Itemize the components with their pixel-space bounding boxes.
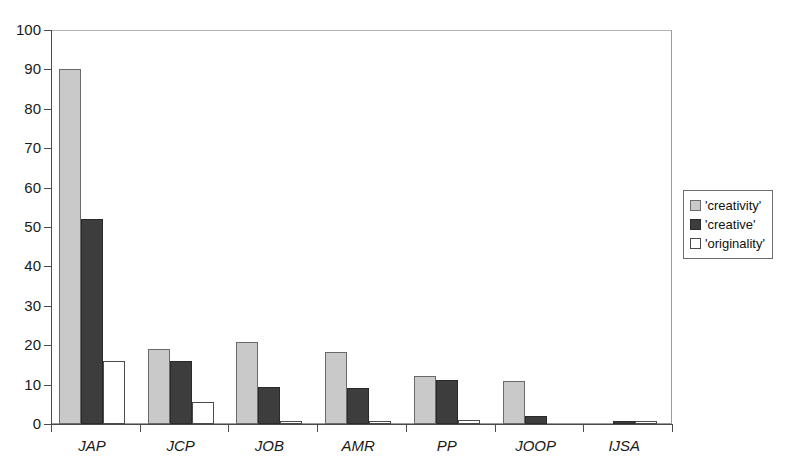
y-axis-tick (44, 345, 51, 346)
y-axis-label: 70 (0, 140, 41, 155)
legend-swatch-icon (690, 238, 701, 249)
x-axis-line (51, 424, 673, 425)
bar-group (503, 30, 569, 424)
x-axis-tick (583, 425, 584, 432)
y-axis-tick (44, 385, 51, 386)
bar (236, 342, 258, 424)
legend-label: 'creative' (705, 218, 755, 231)
bar-group (591, 30, 657, 424)
legend-swatch-icon (690, 200, 701, 211)
bar (325, 352, 347, 424)
y-axis-tick (44, 148, 51, 149)
y-axis-tick (44, 30, 51, 31)
y-axis-tick (44, 424, 51, 425)
bar (458, 420, 480, 424)
y-axis-tick (44, 69, 51, 70)
x-axis-tick (140, 425, 141, 432)
x-axis-tick (317, 425, 318, 432)
bar (170, 361, 192, 424)
y-axis-tick (44, 266, 51, 267)
x-axis-tick (51, 425, 52, 432)
y-axis-tick (44, 306, 51, 307)
bar (192, 402, 214, 424)
legend-item[interactable]: 'creative' (690, 215, 765, 234)
x-axis-tick (228, 425, 229, 432)
bar-group (59, 30, 125, 424)
bar (503, 381, 525, 424)
x-axis-tick (672, 425, 673, 432)
x-axis-tick (495, 425, 496, 432)
bar-group (236, 30, 302, 424)
y-axis-label: 30 (0, 298, 41, 313)
y-axis-label: 10 (0, 377, 41, 392)
y-axis-tick (44, 109, 51, 110)
bar (635, 421, 657, 424)
y-axis-tick (44, 227, 51, 228)
bar (525, 416, 547, 424)
y-axis-label: 60 (0, 180, 41, 195)
y-axis-label: 100 (0, 22, 41, 37)
y-axis-label: 90 (0, 61, 41, 76)
bar (369, 421, 391, 424)
y-axis-label: 0 (0, 416, 41, 431)
y-axis-tick (44, 188, 51, 189)
y-axis-line (51, 30, 52, 425)
chart-legend: 'creativity''creative''originality' (683, 190, 773, 259)
bar (148, 349, 170, 424)
legend-item[interactable]: 'creativity' (690, 196, 765, 215)
bar-group (148, 30, 214, 424)
legend-label: 'creativity' (705, 199, 761, 212)
bar-chart-figure: 0102030405060708090100 JAPJCPJOBAMRPPJOO… (0, 0, 802, 474)
legend-item[interactable]: 'originality' (690, 234, 765, 253)
x-axis-label: IJSA (571, 437, 677, 454)
bar-group (325, 30, 391, 424)
bar (59, 69, 81, 424)
y-axis-label: 40 (0, 258, 41, 273)
legend-label: 'originality' (705, 237, 765, 250)
x-axis-tick (406, 425, 407, 432)
bar (436, 380, 458, 424)
bar (258, 387, 280, 424)
bar-group (414, 30, 480, 424)
bar (613, 421, 635, 424)
bar (280, 421, 302, 424)
bar (81, 219, 103, 424)
bar (347, 388, 369, 424)
bar (414, 376, 436, 424)
legend-swatch-icon (690, 219, 701, 230)
y-axis-label: 50 (0, 219, 41, 234)
y-axis-label: 20 (0, 337, 41, 352)
y-axis-label: 80 (0, 101, 41, 116)
bar (103, 361, 125, 424)
